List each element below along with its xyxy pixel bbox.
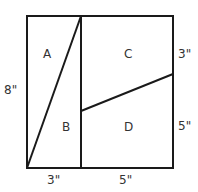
dimension-right-bottom: 5" — [178, 119, 191, 133]
region-label-c: C — [124, 47, 132, 61]
diagonal-line — [27, 16, 81, 168]
geometry-diagram: A B C D 8" 3" 5" 3" 5" — [0, 0, 198, 192]
dimension-bottom-right: 5" — [119, 173, 132, 187]
dimension-right-top: 3" — [178, 47, 191, 61]
outer-square — [27, 16, 173, 168]
dimension-bottom-left: 3" — [47, 173, 60, 187]
region-label-d: D — [124, 120, 133, 134]
dimension-left-height: 8" — [4, 83, 17, 97]
slanted-divider — [81, 74, 173, 111]
region-label-b: B — [62, 120, 70, 134]
region-label-a: A — [43, 47, 52, 61]
